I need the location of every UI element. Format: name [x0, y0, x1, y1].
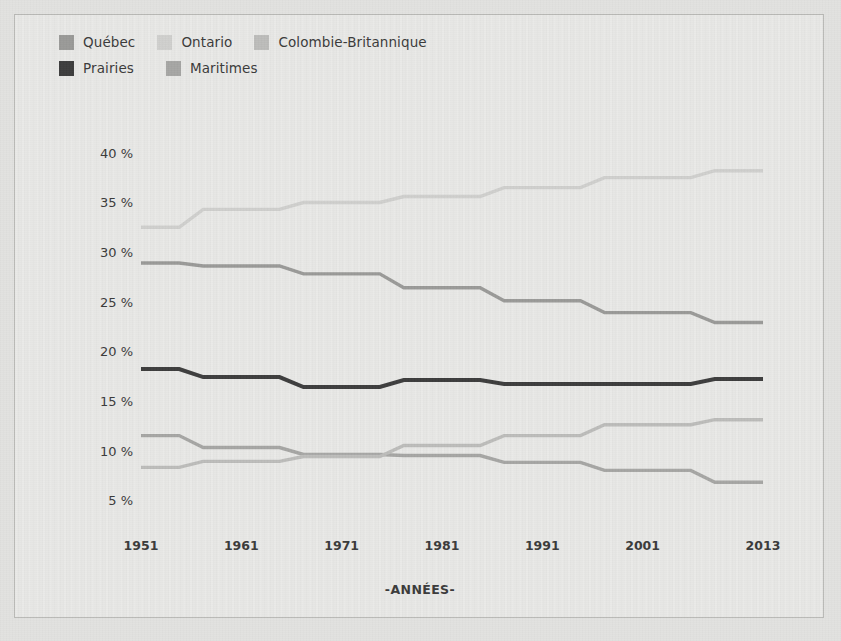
x-axis-tick-label: 1951: [124, 538, 159, 553]
chart-x-axis: 1951196119711981199120012013: [15, 15, 824, 618]
chart-x-axis-title: -ANNÉES-: [15, 582, 824, 597]
x-axis-tick-label: 1981: [425, 538, 460, 553]
chart-figure-frame: Québec Ontario Colombie-Britannique Prai…: [14, 14, 824, 618]
x-axis-tick-label: 1991: [525, 538, 560, 553]
x-axis-tick-label: 1971: [324, 538, 359, 553]
x-axis-tick-label: 1961: [224, 538, 259, 553]
x-axis-tick-label: 2013: [746, 538, 781, 553]
chart-plot-area: 40 %35 %30 %25 %20 %15 %10 %5 % 19511961…: [15, 15, 824, 618]
x-axis-tick-label: 2001: [625, 538, 660, 553]
